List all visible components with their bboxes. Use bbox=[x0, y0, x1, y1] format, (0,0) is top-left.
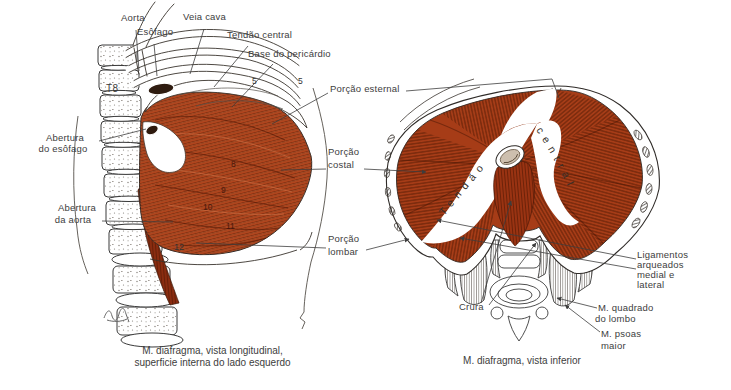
left-caption-line1: M. diafragma, vista longitudinal, bbox=[95, 345, 330, 357]
label-porcao-costal-2: costal bbox=[328, 160, 354, 170]
label-tendao-central: Tendão central bbox=[227, 30, 292, 40]
label-porcao-lombar-2: lombar bbox=[328, 247, 358, 257]
label-base-pericardio: Base do pericárdio bbox=[248, 49, 331, 59]
label-quadrado-1: M. quadrado bbox=[598, 303, 654, 313]
label-t8: T8 bbox=[106, 84, 119, 94]
label-porcao-costal-1: Porção bbox=[328, 147, 359, 157]
label-psoas-1: M. psoas bbox=[601, 329, 641, 339]
rib-number-10: 10 bbox=[203, 202, 213, 212]
rib-number-8: 8 bbox=[231, 159, 236, 169]
left-diaphragm-dome bbox=[130, 80, 330, 265]
right-caption: M. diafragma, vista inferior bbox=[417, 355, 627, 367]
label-aorta: Aorta bbox=[121, 13, 145, 23]
label-psoas-2: maior bbox=[601, 341, 626, 351]
vertebra-cross-section bbox=[490, 240, 548, 341]
rib-number-9: 9 bbox=[221, 185, 226, 195]
rib-number-5b: 5 bbox=[298, 76, 303, 86]
label-porcao-lombar-1: Porção bbox=[328, 234, 359, 244]
label-porcao-esternal: Porção esternal bbox=[330, 84, 400, 94]
spinous-process bbox=[508, 316, 530, 341]
label-abertura-esofago-1: Abertura bbox=[30, 133, 100, 143]
label-ligamentos-4: lateral bbox=[637, 280, 664, 290]
label-veia-cava: Veia cava bbox=[183, 12, 226, 22]
leader-lombar-right bbox=[366, 239, 409, 250]
figure-canvas: 5 5 8 9 10 11 12 bbox=[0, 0, 731, 390]
rib-number-11: 11 bbox=[226, 221, 235, 231]
label-abertura-aorta-2: da aorta bbox=[38, 215, 108, 225]
label-quadrado-2: do lombo bbox=[595, 314, 636, 324]
left-caption-line2: superficie interna do lado esquerdo bbox=[95, 357, 330, 369]
rib-number-12: 12 bbox=[174, 242, 184, 252]
label-crura: Crura bbox=[459, 302, 484, 312]
label-abertura-esofago-2: do esôfago bbox=[28, 144, 98, 154]
label-abertura-aorta-1: Abertura bbox=[42, 203, 112, 213]
label-esofago: Esôfago bbox=[137, 27, 173, 37]
